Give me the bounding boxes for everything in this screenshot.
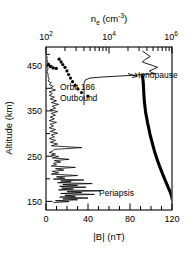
top-tick-label-1: 104 <box>102 30 116 42</box>
y-tick-label-3: 150 <box>27 197 42 207</box>
top-tick-label-2: 106 <box>164 30 178 42</box>
x-tick-label-0: 0 <box>43 214 48 224</box>
bottom-axis-title: |B| (nT) <box>93 231 124 242</box>
y-tick-label-2: 250 <box>27 152 42 162</box>
ionosphere-plot: 102 104 106 ne (cm-3) <box>0 0 194 262</box>
annotation-orbit: Orbit 186 <box>60 82 95 92</box>
bottom-axis-ticklabels: 0 40 80 120 <box>43 214 179 224</box>
figure-root: 102 104 106 ne (cm-3) <box>0 0 194 262</box>
annotation-outbound: Outbound <box>60 93 98 103</box>
left-axis-title: Altitude (km) <box>3 101 14 154</box>
y-tick-label-0: 450 <box>27 61 42 71</box>
y-tick-label-1: 350 <box>27 106 42 116</box>
annotation-periapsis: Periapsis <box>99 188 134 198</box>
top-axis-ticklabels: 102 104 106 <box>39 30 178 42</box>
x-tick-label-1: 40 <box>83 214 93 224</box>
annotation-ionopause: Ionopause <box>138 70 178 80</box>
left-axis-ticklabels: 450 350 250 150 <box>27 61 42 207</box>
top-axis-title: ne (cm-3) <box>91 12 127 26</box>
top-tick-label-0: 102 <box>39 30 53 42</box>
x-tick-label-2: 80 <box>125 214 135 224</box>
x-tick-label-3: 120 <box>164 214 179 224</box>
